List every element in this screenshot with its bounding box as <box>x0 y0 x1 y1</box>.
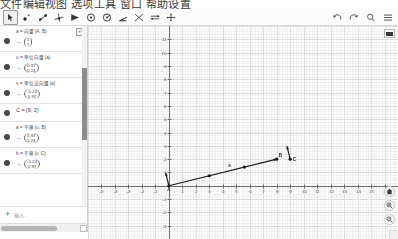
algebra-value: → 0.97 0.24 <box>16 63 82 73</box>
algebra-value: → -0.24 0.97 <box>16 89 82 99</box>
algebra-row[interactable]: v = 单位法向量(a) → -0.24 0.97 <box>0 78 88 104</box>
vector-bracket: -0.24 0.97 <box>24 159 40 169</box>
ellipse-tool[interactable] <box>99 10 114 25</box>
algebra-horizontal-scrollbar[interactable] <box>0 223 88 232</box>
algebra-input-row[interactable]: + 输入… <box>0 206 88 222</box>
undo-button[interactable] <box>330 10 343 24</box>
visibility-toggle[interactable] <box>4 134 10 140</box>
reflect-tool[interactable] <box>131 10 146 25</box>
algebra-vertical-scrollbar[interactable] <box>82 26 87 223</box>
visibility-toggle[interactable] <box>4 64 10 70</box>
move-graphics-tool[interactable] <box>163 10 178 25</box>
vector-bracket: 0.97 0.24 <box>24 63 39 73</box>
vector-bracket: -0.24 0.97 <box>24 89 40 99</box>
vector-component-y: 1 <box>27 42 29 47</box>
algebra-definition: v = 单位法向量(a) <box>16 81 82 87</box>
visibility-toggle[interactable] <box>4 110 10 116</box>
algebra-row[interactable]: a = 向量(A, B) → 1 1 ≡∇ <box>0 26 88 52</box>
tool-group <box>3 10 178 25</box>
algebra-view: a = 向量(A, B) → 1 1 ≡∇ u = 单位向量(a) <box>0 26 88 232</box>
algebra-row[interactable]: C = (9, 2) <box>0 104 88 122</box>
algebra-input[interactable]: 输入… <box>14 211 29 218</box>
value-arrow-icon: → <box>16 135 22 141</box>
visibility-toggle[interactable] <box>4 160 10 166</box>
slider-tool[interactable] <box>147 10 162 25</box>
vector-bracket: 0.97 0.24 <box>24 133 39 143</box>
point-tool[interactable] <box>19 10 34 25</box>
cut-off-menu-text: 文件编辑视图 选项工具 窗口 帮助设置 <box>0 0 191 9</box>
algebra-definition: a = 向量(A, B) <box>16 29 82 35</box>
angle-tool[interactable] <box>115 10 130 25</box>
vector-bracket: 1 1 <box>24 37 32 47</box>
algebra-definition: u = 单位向量(a) <box>16 55 82 61</box>
line-tool[interactable] <box>35 10 50 25</box>
add-input-icon[interactable]: + <box>5 210 10 219</box>
algebra-row[interactable]: b = 平移(v, C) → -0.24 0.97 <box>0 148 88 174</box>
zoom-out-button[interactable] <box>384 214 395 225</box>
coordinate-grid <box>88 26 398 239</box>
vector-component-y: 0.97 <box>28 94 37 99</box>
algebra-definition: b = 平移(v, C) <box>16 151 82 157</box>
visibility-toggle[interactable] <box>4 38 10 44</box>
polygon-tool[interactable] <box>67 10 82 25</box>
cut-off-menu-strip: 文件编辑视图 选项工具 窗口 帮助设置 <box>0 0 398 9</box>
graphics-view[interactable] <box>88 26 398 239</box>
algebra-row-list: a = 向量(A, B) → 1 1 ≡∇ u = 单位向量(a) <box>0 26 88 174</box>
algebra-definition: C = (9, 2) <box>16 107 82 113</box>
home-button[interactable] <box>384 186 395 197</box>
graphics-resize-corner[interactable] <box>389 230 398 239</box>
perpendicular-line-tool[interactable] <box>51 10 66 25</box>
algebra-value: → 1 1 <box>16 37 82 47</box>
search-button[interactable] <box>364 10 377 24</box>
algebra-value: → -0.24 0.97 <box>16 159 82 169</box>
value-arrow-icon: → <box>16 39 22 45</box>
style-bar-button[interactable] <box>384 29 395 38</box>
redo-button[interactable] <box>347 10 360 24</box>
visibility-toggle[interactable] <box>4 90 10 96</box>
algebra-row[interactable]: a = 平移(u, B) → 0.97 0.24 <box>0 122 88 148</box>
zoom-in-button[interactable] <box>384 200 395 211</box>
main-toolbar <box>0 9 398 26</box>
move-tool[interactable] <box>3 10 18 25</box>
value-arrow-icon: → <box>16 65 22 71</box>
value-arrow-icon: → <box>16 91 22 97</box>
scrollbar-thumb[interactable] <box>1 226 57 231</box>
circle-tool[interactable] <box>83 10 98 25</box>
zoom-controls <box>384 186 395 225</box>
vector-component-y: 0.97 <box>28 164 37 169</box>
scrollbar-thumb[interactable] <box>82 68 87 140</box>
geogebra-window: 文件编辑视图 选项工具 窗口 帮助设置 <box>0 0 398 239</box>
algebra-value: → 0.97 0.24 <box>16 133 82 143</box>
resize-corner[interactable] <box>80 225 87 232</box>
value-arrow-icon: → <box>16 161 22 167</box>
algebra-row[interactable]: u = 单位向量(a) → 0.97 0.24 <box>0 52 88 78</box>
menu-button[interactable] <box>381 10 394 24</box>
toolbar-right-group <box>330 10 394 24</box>
vector-component-y: 0.24 <box>27 68 36 73</box>
vector-component-y: 0.24 <box>27 138 36 143</box>
algebra-definition: a = 平移(u, B) <box>16 125 82 131</box>
